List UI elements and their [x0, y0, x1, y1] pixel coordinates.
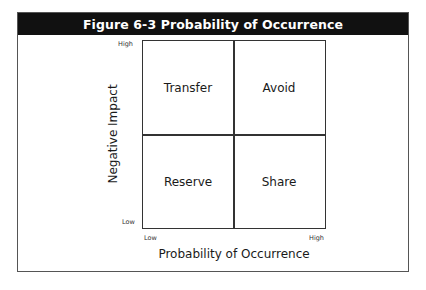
- quadrant-transfer: Transfer: [143, 41, 233, 134]
- quadrant-share: Share: [234, 135, 324, 228]
- quadrant-reserve: Reserve: [143, 135, 233, 228]
- quadrant-avoid: Avoid: [234, 41, 324, 134]
- risk-matrix-grid: Transfer Avoid Reserve Share: [142, 40, 326, 229]
- figure-frame: Figure 6-3 Probability of Occurrence Hig…: [17, 12, 409, 272]
- x-axis-low-tick: Low: [144, 234, 157, 242]
- x-axis-high-tick: High: [309, 234, 324, 242]
- x-axis-label: Probability of Occurrence: [142, 247, 326, 261]
- y-axis-high-tick: High: [118, 40, 133, 48]
- figure-title: Figure 6-3 Probability of Occurrence: [18, 13, 408, 35]
- y-axis-low-tick: Low: [122, 218, 135, 226]
